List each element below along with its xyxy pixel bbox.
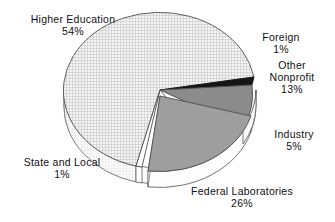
slice-label-other-nonprofit-name-line1: Other bbox=[252, 60, 332, 72]
slice-label-state-and-local-value: 1% bbox=[4, 169, 120, 181]
slice-label-federal-laboratories: Federal Laboratories 26% bbox=[166, 186, 318, 210]
side-wall-state-and-local bbox=[136, 166, 142, 183]
pie-chart: Higher Education 54% Foreign 1% Other No… bbox=[0, 0, 335, 222]
slice-label-other-nonprofit: Other Nonprofit 13% bbox=[252, 60, 332, 95]
slice-label-foreign-value: 1% bbox=[246, 44, 316, 56]
slice-label-other-nonprofit-value: 13% bbox=[252, 84, 332, 96]
slice-label-other-nonprofit-name-line2: Nonprofit bbox=[252, 72, 332, 84]
slice-label-state-and-local-name: State and Local bbox=[4, 157, 120, 169]
slice-label-higher-education-value: 54% bbox=[6, 26, 140, 38]
slice-label-higher-education: Higher Education 54% bbox=[6, 14, 140, 38]
slice-label-federal-laboratories-value: 26% bbox=[166, 198, 318, 210]
slice-label-federal-laboratories-name: Federal Laboratories bbox=[166, 186, 318, 198]
slice-label-industry-name: Industry bbox=[258, 129, 330, 141]
slice-label-foreign: Foreign 1% bbox=[246, 32, 316, 56]
slice-label-higher-education-name: Higher Education bbox=[6, 14, 140, 26]
slice-label-industry: Industry 5% bbox=[258, 129, 330, 153]
slice-label-state-and-local: State and Local 1% bbox=[4, 157, 120, 181]
slice-label-industry-value: 5% bbox=[258, 141, 330, 153]
slice-label-foreign-name: Foreign bbox=[246, 32, 316, 44]
